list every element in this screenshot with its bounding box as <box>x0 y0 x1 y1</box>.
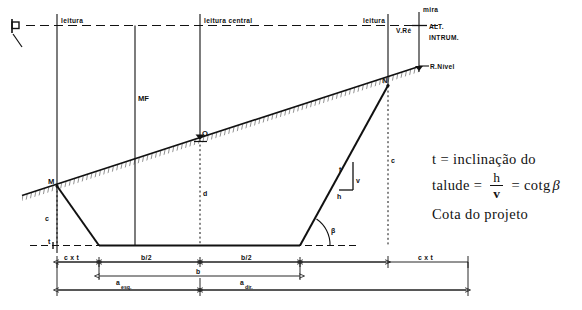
label-alt-instrum-line2: INTRUM. <box>429 34 459 41</box>
formula-equals-2: = <box>511 178 520 193</box>
dimension-lines-group <box>57 256 468 296</box>
label-c-left: c <box>45 215 49 222</box>
dim-label-a-dir-sub: dir. <box>245 284 253 290</box>
dim-label-b-half-right: b/2 <box>241 254 252 261</box>
formula-line-1-text: t = inclinação do <box>432 152 536 167</box>
label-leitura-right: leitura <box>363 17 385 24</box>
dim-label-b-half-left: b/2 <box>141 254 152 261</box>
beta-angle-arc <box>317 219 331 246</box>
formula-talude-word: talude <box>432 178 470 193</box>
dim-label-a-esq-sub: esq. <box>121 284 132 290</box>
label-r-nivel: R.Nível <box>430 63 455 70</box>
label-v-re: V.Ré <box>396 27 411 34</box>
label-h: h <box>337 193 341 200</box>
dim-label-cxt-left: c x t <box>64 254 80 261</box>
formula-block: t = inclinação do talude = h v = cotg β … <box>432 152 582 221</box>
dim-label-b: b <box>196 268 200 275</box>
formula-equals-1: = <box>474 178 483 193</box>
label-leitura-central: leitura central <box>204 17 253 24</box>
label-mira: mira <box>423 6 438 13</box>
formula-fraction: h v <box>490 171 503 201</box>
label-t-left: t <box>48 238 51 245</box>
point-m-marker <box>55 184 58 187</box>
label-c-right: c <box>391 157 395 164</box>
formula-cotg: cotg <box>524 178 551 193</box>
figure-canvas: leitura leitura central leitura mira V.R… <box>0 0 582 310</box>
dim-label-a-dir: a <box>240 279 244 286</box>
right-slope-line <box>300 86 388 246</box>
formula-denominator: v <box>491 186 502 201</box>
label-mf: MF <box>138 94 149 103</box>
label-point-o: O <box>202 129 208 138</box>
level-instrument-icon <box>12 19 22 47</box>
dim-label-cxt-right: c x t <box>418 254 434 261</box>
formula-numerator: h <box>491 171 502 186</box>
staff-lines-group <box>57 12 419 253</box>
label-point-n: N <box>382 76 387 85</box>
label-beta: β <box>331 227 336 235</box>
formula-beta-symbol: β <box>553 178 561 193</box>
formula-line-3: Cota do projeto <box>432 207 582 222</box>
formula-line-1: t = inclinação do <box>432 152 582 167</box>
label-point-m: M <box>48 177 54 186</box>
label-alt-instrum-line1: ALT. <box>429 23 444 30</box>
formula-line-3-text: Cota do projeto <box>432 207 528 222</box>
label-d: d <box>203 190 207 197</box>
dim-label-a-esq: a <box>116 279 120 286</box>
label-leitura-left: leitura <box>61 17 83 24</box>
label-v: v <box>356 177 360 184</box>
left-slope-line <box>57 186 99 246</box>
formula-line-2: talude = h v = cotg β <box>432 171 582 201</box>
